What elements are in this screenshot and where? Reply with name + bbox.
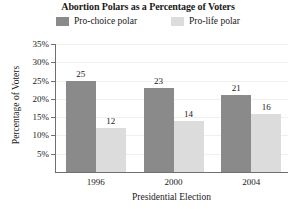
y-axis-tick-label: 35% (33, 39, 50, 49)
bar-2000-pro-choice: 23 (144, 88, 174, 172)
y-axis-tick (51, 117, 55, 118)
chart-legend: Pro-choice polar Pro-life polar (0, 17, 296, 27)
gridline (56, 62, 288, 63)
y-axis-tick-label: 10% (33, 130, 50, 140)
y-axis-tick (51, 81, 55, 82)
legend-label-pro-choice: Pro-choice polar (74, 17, 137, 27)
x-axis-title: Presidential Election (55, 192, 288, 202)
y-axis-tick (51, 135, 55, 136)
bar-2000-pro-life: 14 (174, 121, 204, 172)
legend-item-pro-choice: Pro-choice polar (56, 17, 137, 27)
bar-1996-pro-life: 12 (96, 128, 126, 172)
y-axis-tick-label: 15% (33, 112, 50, 122)
y-axis-title: Percentage of Voters (11, 45, 21, 165)
x-axis-tick-label: 1996 (87, 177, 105, 187)
bar-1996-pro-choice: 25 (66, 81, 96, 172)
legend-label-pro-life: Pro-life polar (189, 17, 240, 27)
y-axis-tick-label: 20% (33, 94, 50, 104)
bar-2004-pro-choice: 21 (221, 95, 251, 172)
bar-value-label: 23 (154, 76, 163, 86)
bar-2004-pro-life: 16 (251, 114, 281, 173)
x-axis-tick-label: 2000 (165, 177, 183, 187)
bar-value-label: 21 (232, 83, 241, 93)
plot-area: 5%10%15%20%25%30%35% 251223142116 199620… (55, 40, 288, 176)
bar-value-label: 25 (76, 69, 85, 79)
y-axis-tick (51, 154, 55, 155)
bar-chart: Abortion Polars as a Percentage of Voter… (0, 0, 296, 209)
y-axis-tick-label: 5% (37, 149, 49, 159)
y-axis-tick (51, 99, 55, 100)
legend-item-pro-life: Pro-life polar (171, 17, 240, 27)
x-axis-line (55, 172, 288, 173)
y-axis-tick-label: 30% (33, 57, 50, 67)
gridline (56, 44, 288, 45)
y-axis-tick (51, 62, 55, 63)
legend-swatch-pro-choice (56, 17, 69, 26)
y-axis-tick-label: 25% (33, 76, 50, 86)
bar-value-label: 12 (106, 116, 115, 126)
x-axis-tick-label: 2004 (242, 177, 260, 187)
y-axis-tick (51, 44, 55, 45)
chart-title: Abortion Polars as a Percentage of Voter… (0, 1, 296, 12)
bar-value-label: 14 (184, 109, 193, 119)
bar-value-label: 16 (262, 102, 271, 112)
legend-swatch-pro-life (171, 17, 184, 26)
